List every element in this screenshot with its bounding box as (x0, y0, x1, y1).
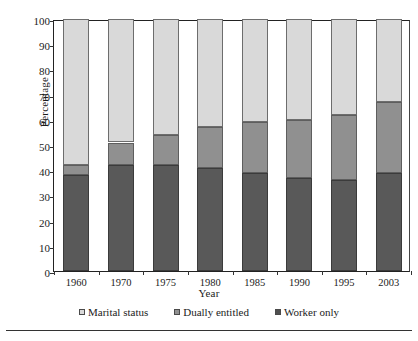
legend-label: Worker only (284, 306, 339, 318)
bar-segment-worker-only (153, 165, 179, 271)
bar-segment-dually-entitled (63, 165, 89, 175)
x-axis-title: Year (0, 287, 418, 299)
y-tick-mark (50, 122, 54, 123)
legend-item-dually: Dually entitled (174, 306, 249, 318)
y-tick-mark (50, 223, 54, 224)
legend-item-worker: Worker only (275, 306, 339, 318)
legend-swatch-icon (79, 309, 85, 315)
stacked-bar (108, 19, 134, 271)
y-tick-mark (50, 197, 54, 198)
x-tick-mark (188, 271, 189, 275)
bar-segment-marital-status (63, 19, 89, 165)
chart-legend: Marital statusDually entitledWorker only (0, 306, 418, 318)
y-tick-mark (50, 21, 54, 22)
y-tick-label: 80 (6, 66, 50, 77)
chart-figure: Percentage 0102030405060708090100 196019… (0, 0, 418, 341)
y-tick-label: 90 (6, 41, 50, 52)
x-tick-mark (54, 271, 55, 275)
bar-segment-marital-status (376, 19, 402, 102)
bar-segment-dually-entitled (197, 127, 223, 167)
y-tick-label: 100 (6, 16, 50, 27)
bar-segment-marital-status (153, 19, 179, 135)
bar-segment-dually-entitled (108, 143, 134, 166)
y-tick-label: 70 (6, 91, 50, 102)
bar-segment-worker-only (376, 173, 402, 271)
bar-segment-marital-status (242, 19, 268, 122)
y-tick-mark (50, 147, 54, 148)
legend-swatch-icon (275, 309, 281, 315)
y-tick-mark (50, 97, 54, 98)
y-tick-label: 10 (6, 242, 50, 253)
bar-segment-marital-status (286, 19, 312, 120)
legend-label: Dually entitled (183, 306, 249, 318)
x-tick-mark (277, 271, 278, 275)
y-tick-label: 40 (6, 167, 50, 178)
y-tick-label: 20 (6, 217, 50, 228)
legend-swatch-icon (174, 309, 180, 315)
y-tick-label: 30 (6, 192, 50, 203)
bar-segment-worker-only (108, 165, 134, 271)
stacked-bar (376, 19, 402, 271)
bar-segment-marital-status (331, 19, 357, 115)
y-tick-mark (50, 46, 54, 47)
bar-segment-worker-only (286, 178, 312, 271)
y-tick-label: 60 (6, 116, 50, 127)
plot-area: 0102030405060708090100 19601970197519801… (53, 20, 410, 272)
stacked-bar (331, 19, 357, 271)
x-tick-mark (322, 271, 323, 275)
x-tick-mark (143, 271, 144, 275)
y-tick-mark (50, 172, 54, 173)
legend-label: Marital status (88, 306, 148, 318)
bar-segment-dually-entitled (242, 122, 268, 172)
bar-segment-worker-only (331, 180, 357, 271)
bar-segment-dually-entitled (153, 135, 179, 165)
legend-item-marital: Marital status (79, 306, 148, 318)
x-tick-mark (411, 271, 412, 275)
y-tick-label: 50 (6, 142, 50, 153)
bar-segment-worker-only (242, 173, 268, 271)
stacked-bar (153, 19, 179, 271)
bar-segment-dually-entitled (376, 102, 402, 173)
y-tick-mark (50, 248, 54, 249)
stacked-bar (197, 19, 223, 271)
stacked-bar (286, 19, 312, 271)
x-tick-mark (233, 271, 234, 275)
bar-segment-worker-only (63, 175, 89, 271)
x-tick-mark (366, 271, 367, 275)
stacked-bar (242, 19, 268, 271)
stacked-bar (63, 19, 89, 271)
bottom-rule (6, 330, 412, 331)
bar-segment-marital-status (108, 19, 134, 142)
bar-segment-dually-entitled (286, 120, 312, 178)
y-tick-label: 0 (6, 268, 50, 279)
y-tick-mark (50, 71, 54, 72)
bar-segment-worker-only (197, 168, 223, 271)
bar-segment-marital-status (197, 19, 223, 127)
bar-segment-dually-entitled (331, 115, 357, 181)
x-tick-mark (99, 271, 100, 275)
